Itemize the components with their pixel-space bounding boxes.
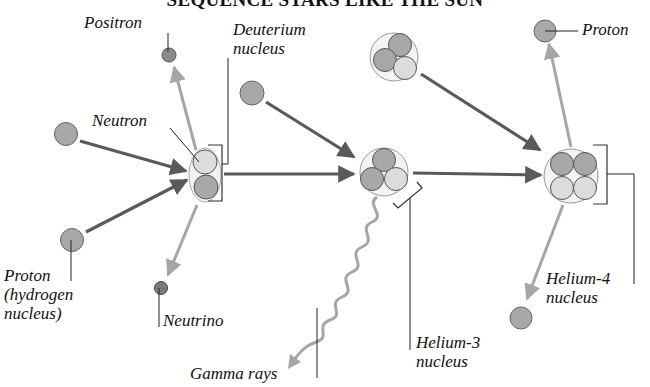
- diagram-title: SEQUENCE STARS LIKE THE SUN: [0, 0, 650, 11]
- label-positron: Positron: [84, 14, 142, 32]
- label-proton-hydrogen-line2: (hydrogen: [4, 286, 73, 304]
- positron-particle: [162, 48, 176, 62]
- label-helium3-line1: Helium-3: [416, 334, 480, 352]
- gamma-ray-arrowhead: [288, 354, 301, 369]
- incoming-proton-stage2: [240, 81, 264, 105]
- arrow-proton-to-helium3: [266, 102, 354, 157]
- helium4-nucleus: [544, 149, 598, 203]
- arrow-to-proton-top: [549, 44, 571, 147]
- arrow-helium3-to-helium4: [413, 173, 541, 175]
- arrow-proton-upper-to-deuterium: [80, 141, 186, 171]
- label-proton-hydrogen-line3: nucleus): [4, 305, 62, 323]
- label-gamma-rays: Gamma rays: [190, 365, 277, 383]
- arrow-to-neutrino: [168, 205, 197, 275]
- ejected-proton-bottom: [510, 307, 532, 329]
- diagram-canvas: [0, 0, 650, 387]
- arrow-to-positron: [174, 67, 196, 150]
- helium4-leader: [607, 174, 634, 284]
- incoming-helium3-nucleus: [370, 33, 418, 81]
- neutrino-particle: [155, 282, 168, 295]
- label-proton-top-right: Proton: [582, 21, 629, 39]
- label-helium4-line2: nucleus: [546, 289, 598, 307]
- proton-proton-chain-diagram: SEQUENCE STARS LIKE THE SUN Positron Deu…: [0, 0, 650, 387]
- arrow-helium3-top-to-helium4: [421, 74, 540, 150]
- gamma-ray-wave: [294, 197, 377, 360]
- label-neutrino: Neutrino: [163, 312, 223, 330]
- label-helium3-line2: nucleus: [416, 353, 468, 371]
- arrow-proton-lower-to-deuterium: [86, 180, 187, 232]
- incoming-proton-upper: [55, 123, 78, 146]
- deuterium-leader: [222, 58, 228, 164]
- label-deuterium-line2: nucleus: [233, 40, 285, 58]
- label-helium4-line1: Helium-4: [546, 270, 610, 288]
- helium3-nucleus: [360, 148, 408, 196]
- label-proton-hydrogen-line1: Proton: [4, 267, 51, 285]
- label-neutron: Neutron: [92, 112, 147, 130]
- label-deuterium-line1: Deuterium: [233, 21, 306, 39]
- incoming-proton-lower: [61, 229, 84, 252]
